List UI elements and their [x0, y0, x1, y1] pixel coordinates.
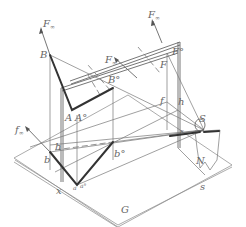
- label-b: b: [44, 154, 50, 165]
- label-B-deg: B°: [107, 74, 120, 85]
- label-G: G: [121, 204, 129, 215]
- label-b-deg: b°: [114, 148, 125, 159]
- label-a-deg: a°: [80, 182, 87, 189]
- label-B: B: [39, 49, 47, 60]
- label-N: N: [195, 155, 206, 166]
- label-F-upper: F°: [171, 46, 184, 57]
- label-a: a: [73, 184, 77, 191]
- label-F-inf-top: F∞: [147, 9, 160, 21]
- label-F-inf-left: F∞: [42, 18, 55, 30]
- label-h-right: h: [178, 96, 184, 107]
- label-x: x: [56, 185, 62, 196]
- label-f: f: [159, 95, 166, 106]
- label-S: S: [199, 113, 206, 124]
- label-A-deg: A°: [74, 112, 87, 123]
- label-F-inf-mid: F∞: [104, 54, 117, 66]
- label-F-lower: F: [159, 59, 168, 70]
- label-s: s: [200, 181, 205, 192]
- observer-figure: [170, 119, 220, 170]
- vanishing-arrows: [25, 19, 162, 152]
- label-h-left: h: [55, 141, 61, 152]
- label-kappa: κ: [179, 127, 184, 134]
- label-A: A: [64, 112, 72, 123]
- perspective-diagram: F∞ F∞ F∞ f∞ B B° A A° F° F f h h b b° x …: [0, 0, 246, 227]
- label-f-inf: f∞: [14, 124, 24, 136]
